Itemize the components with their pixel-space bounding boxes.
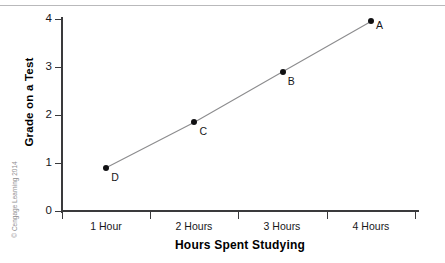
- data-point-c[interactable]: [191, 119, 197, 125]
- y-axis-label-2-wrap: 2: [28, 109, 52, 121]
- y-axis-tick-3: [55, 67, 62, 68]
- y-axis-label-1: 1: [32, 157, 52, 169]
- y-axis-tick-0: [55, 211, 62, 212]
- y-axis-label-0: 0: [32, 205, 52, 217]
- data-point-a[interactable]: [368, 18, 374, 24]
- x-axis-label-3-hours: 3 Hours: [237, 221, 327, 232]
- y-axis-label-3-wrap: 3: [28, 61, 52, 73]
- y-axis-tick-2: [55, 115, 62, 116]
- top-divider-rule: [0, 5, 445, 6]
- y-axis-label-2: 2: [32, 109, 52, 121]
- data-point-label-c: C: [199, 126, 207, 137]
- data-point-d[interactable]: [103, 165, 109, 171]
- y-axis-tick-1: [55, 163, 62, 164]
- data-point-b[interactable]: [280, 69, 286, 75]
- x-axis-tick-1: [150, 212, 151, 219]
- y-axis-label-0-wrap: 0: [28, 205, 52, 217]
- y-axis-title: Grade on a Test: [23, 37, 35, 167]
- y-axis-label-3: 3: [32, 61, 52, 73]
- x-axis-tick-2: [238, 212, 239, 219]
- data-point-label-a: A: [376, 20, 383, 31]
- copyright-credit: © Cengage Learning 2014: [11, 158, 18, 242]
- chart-figure: © Cengage Learning 2014 Grade on a Test …: [0, 0, 445, 263]
- x-axis-label-4-hours: 4 Hours: [326, 221, 416, 232]
- x-axis-tick-3: [327, 212, 328, 219]
- x-axis-label-2-hours: 2 Hours: [149, 221, 239, 232]
- data-point-label-d: D: [111, 172, 119, 183]
- x-axis-tick-4: [415, 212, 416, 219]
- x-axis-tick-0: [62, 212, 63, 219]
- y-axis-label-1-wrap: 1: [28, 157, 52, 169]
- data-point-label-b: B: [288, 76, 295, 87]
- y-axis-label-4-wrap: 4: [28, 13, 52, 25]
- y-axis-label-4: 4: [32, 13, 52, 25]
- x-axis-line: [61, 210, 419, 212]
- x-axis-label-1-hour: 1 Hour: [61, 221, 151, 232]
- x-axis-title: Hours Spent Studying: [62, 238, 418, 252]
- y-axis-tick-4: [55, 19, 62, 20]
